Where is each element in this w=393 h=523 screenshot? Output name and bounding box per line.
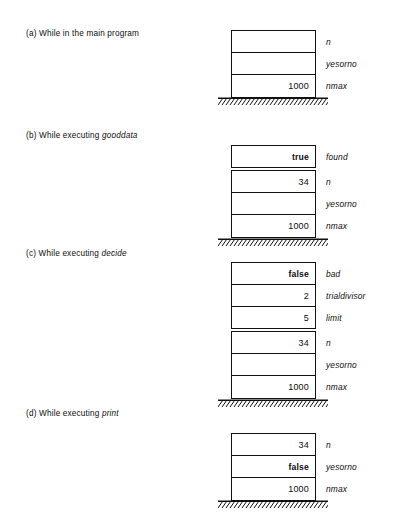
panel-a-cell-nmax: 1000nmax [232, 75, 315, 97]
panel-b-caption: (b) While executing gooddata [26, 130, 138, 141]
panel-d-caption-text: While executing [39, 409, 100, 418]
panel-b-value-n: 34 [299, 177, 309, 187]
panel-b-procedure-name: gooddata [102, 131, 138, 140]
stack-frames-figure: (a) While in the main programnyesorno100… [0, 0, 393, 523]
panel-b-label-yesorno: yesorno [326, 199, 357, 209]
panel-c-caption-text: While executing [39, 249, 100, 258]
panel-c-value-bad: false [288, 269, 309, 279]
panel-a-stack: nyesorno1000nmax [231, 30, 316, 98]
panel-c-cell-limit: 5limit [232, 307, 315, 329]
panel-c-main-frame: 34nyesorno1000nmax [231, 331, 316, 399]
panel-c-label-nmax: nmax [326, 382, 347, 392]
panel-c-procedure-name: decide [102, 249, 127, 258]
panel-d-cell-nmax: 1000nmax [232, 478, 315, 500]
panel-b-tag: (b) [26, 131, 37, 140]
panel-b-cell-found: truefound [232, 146, 315, 168]
panel-c-value-n: 34 [299, 338, 309, 348]
panel-d-label-n: n [326, 440, 331, 450]
panel-c-cell-yesorno: yesorno [232, 354, 315, 376]
panel-c-caption: (c) While executing decide [26, 248, 127, 259]
panel-c-label-trialdivisor: trialdivisor [326, 291, 366, 301]
panel-d-caption: (d) While executing print [26, 408, 119, 419]
panel-a-label-n: n [326, 37, 331, 47]
panel-a-tag: (a) [26, 29, 37, 38]
panel-d-value-n: 34 [299, 440, 309, 450]
panel-c-label-bad: bad [326, 269, 340, 279]
panel-a-value-nmax: 1000 [288, 81, 309, 91]
panel-a-cell-yesorno: yesorno [232, 53, 315, 75]
panel-c-tag: (c) [26, 249, 36, 258]
panel-d-cell-yesorno: falseyesorno [232, 456, 315, 478]
panel-c-decide-frame: falsebad2trialdivisor5limit [231, 262, 316, 329]
panel-c-label-limit: limit [326, 313, 342, 323]
panel-d-procedure-name: print [102, 409, 119, 418]
panel-b-caption-text: While executing [39, 131, 100, 140]
panel-b-main-frame: 34nyesorno1000nmax [231, 170, 316, 238]
panel-d-label-nmax: nmax [326, 484, 347, 494]
panel-b-stack: truefound34nyesorno1000nmax [231, 145, 316, 238]
panel-b-cell-nmax: 1000nmax [232, 215, 315, 237]
panel-c-ground-hatch [218, 399, 328, 408]
panel-b-ground-hatch [218, 238, 328, 247]
panel-d-label-yesorno: yesorno [326, 462, 357, 472]
panel-b-value-nmax: 1000 [288, 221, 309, 231]
panel-c-value-trialdivisor: 2 [304, 291, 309, 301]
panel-b-label-n: n [326, 177, 331, 187]
panel-b-cell-n: 34n [232, 171, 315, 193]
panel-d-main-frame: 34nfalseyesorno1000nmax [231, 433, 316, 501]
panel-c-cell-n: 34n [232, 332, 315, 354]
panel-d-stack: 34nfalseyesorno1000nmax [231, 433, 316, 501]
panel-c-label-n: n [326, 338, 331, 348]
panel-a-label-nmax: nmax [326, 81, 347, 91]
panel-c-value-limit: 5 [304, 313, 309, 323]
panel-c-cell-trialdivisor: 2trialdivisor [232, 285, 315, 307]
panel-b-gooddata-frame: truefound [231, 145, 316, 168]
panel-c-stack: falsebad2trialdivisor5limit34nyesorno100… [231, 262, 316, 399]
panel-d-cell-n: 34n [232, 434, 315, 456]
panel-b-label-found: found [326, 152, 348, 162]
panel-a-label-yesorno: yesorno [326, 59, 357, 69]
panel-c-value-nmax: 1000 [288, 382, 309, 392]
panel-a-ground-hatch [218, 97, 328, 106]
panel-b-value-found: true [292, 152, 309, 162]
panel-d-value-yesorno: false [288, 462, 309, 472]
panel-c-cell-bad: falsebad [232, 263, 315, 285]
panel-d-tag: (d) [26, 409, 37, 418]
panel-a-main-frame: nyesorno1000nmax [231, 30, 316, 98]
panel-c-label-yesorno: yesorno [326, 360, 357, 370]
panel-c-cell-nmax: 1000nmax [232, 376, 315, 398]
panel-a-caption-text: While in the main program [39, 29, 139, 38]
panel-b-cell-yesorno: yesorno [232, 193, 315, 215]
panel-d-ground-hatch [218, 500, 328, 509]
panel-d-value-nmax: 1000 [288, 484, 309, 494]
panel-a-caption: (a) While in the main program [26, 28, 139, 39]
panel-a-cell-n: n [232, 31, 315, 53]
panel-b-label-nmax: nmax [326, 221, 347, 231]
